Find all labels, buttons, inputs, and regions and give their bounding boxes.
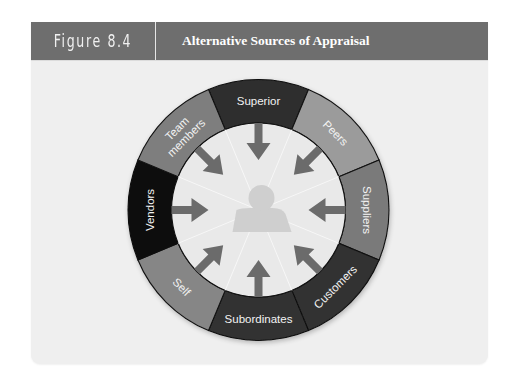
- silhouette-body: [233, 208, 292, 232]
- segment-label: Suppliers: [361, 186, 373, 234]
- silhouette-head: [249, 185, 275, 211]
- segment-label: Subordinates: [225, 313, 293, 325]
- segment-label: Vendors: [144, 189, 156, 231]
- segment-label: Superior: [237, 95, 281, 107]
- appraisal-sources-diagram: SuperiorPeersSuppliersCustomersSubordina…: [0, 0, 512, 382]
